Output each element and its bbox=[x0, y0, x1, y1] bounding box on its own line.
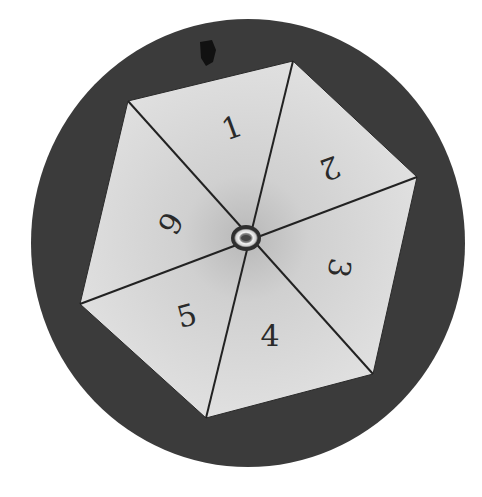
hub-center bbox=[241, 235, 251, 241]
spinner-photo: 1 2 3 4 5 6 bbox=[0, 0, 482, 497]
sector-label-4: 4 bbox=[260, 318, 279, 353]
